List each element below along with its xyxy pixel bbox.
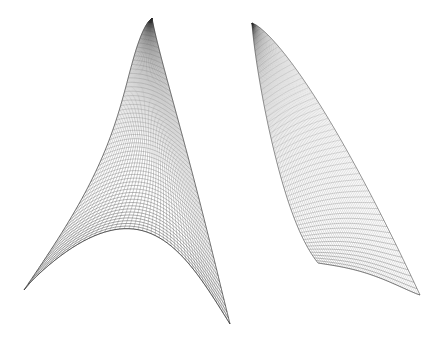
figure-background [0, 0, 440, 339]
figure-canvas [0, 0, 440, 339]
wireframe-figure [0, 0, 440, 339]
